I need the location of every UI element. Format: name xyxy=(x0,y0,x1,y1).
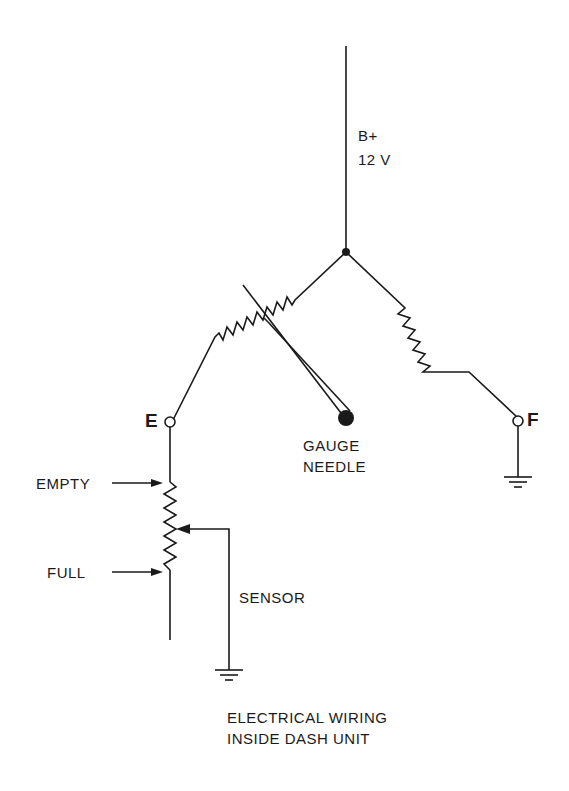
gauge-needle-label-1: GAUGE xyxy=(303,436,360,455)
terminal-f xyxy=(513,416,523,426)
terminal-f-label: F xyxy=(527,410,539,429)
sensor-wiper-wire xyxy=(180,529,229,670)
caption-line-2: INSIDE DASH UNIT xyxy=(227,729,370,748)
sensor-label: SENSOR xyxy=(239,588,305,607)
voltage-label: 12 V xyxy=(358,150,391,169)
sensor-ground-symbol xyxy=(215,670,243,680)
caption-line-1: ELECTRICAL WIRING xyxy=(227,708,387,727)
circuit-diagram xyxy=(0,0,569,791)
empty-arrow-head xyxy=(151,479,163,487)
left-coil-resistor xyxy=(173,252,346,420)
full-arrow-head xyxy=(151,568,163,576)
f-ground-symbol xyxy=(504,477,532,487)
supply-label: B+ xyxy=(358,126,378,145)
empty-label: EMPTY xyxy=(36,474,90,493)
wiper-arrow-head xyxy=(176,524,190,534)
gauge-needle-label-2: NEEDLE xyxy=(303,457,366,476)
needle-pivot xyxy=(338,410,354,426)
sensor-resistor xyxy=(164,482,176,570)
full-label: FULL xyxy=(47,563,86,582)
right-coil-resistor xyxy=(346,252,517,417)
junction-dot xyxy=(342,248,350,256)
terminal-e-label: E xyxy=(145,411,158,430)
terminal-e xyxy=(165,417,175,427)
